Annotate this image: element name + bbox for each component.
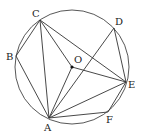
segment-co: [40, 20, 72, 67]
label-o: O: [74, 54, 82, 65]
label-a: A: [43, 122, 52, 133]
label-d: D: [115, 16, 123, 27]
segment-cb: [16, 20, 40, 56]
segment-ad: [49, 28, 114, 118]
label-f: F: [106, 114, 113, 125]
center-point-o: [70, 65, 73, 68]
geometry-diagram: A B C D E F O: [0, 0, 143, 136]
segment-oa: [49, 67, 72, 118]
label-e: E: [128, 79, 135, 90]
label-c: C: [32, 8, 40, 19]
segment-ae: [49, 82, 126, 118]
label-b: B: [6, 51, 13, 62]
segments-group: [16, 20, 126, 118]
